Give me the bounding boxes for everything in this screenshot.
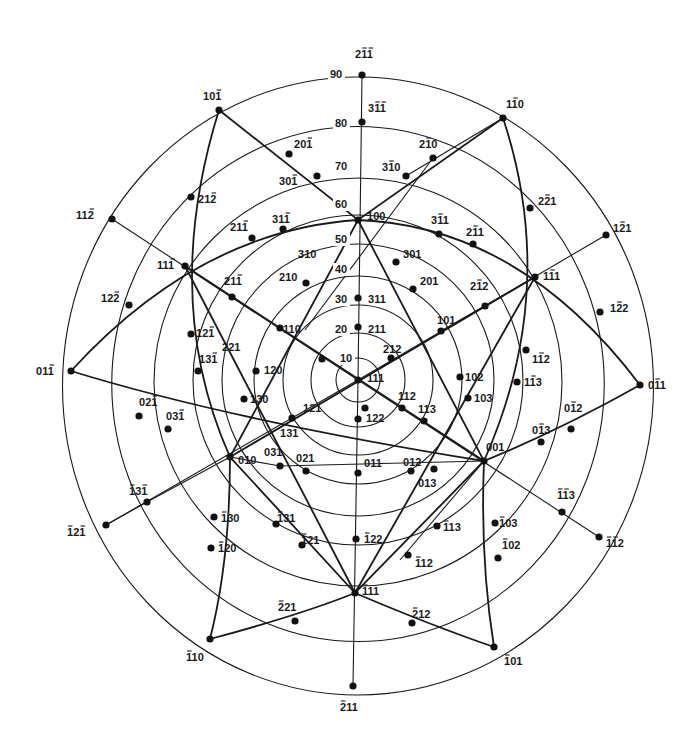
pole-point [349,682,356,689]
pole-label: 010 [238,454,256,466]
pole-point [602,231,609,238]
pole-label: 112 [532,353,550,365]
pole-label: 103 [474,392,492,404]
pole-point [404,551,411,558]
pole-label: 212 [412,608,430,620]
pole-point [318,355,325,362]
pole-label: 221 [222,341,240,353]
pole-point [429,154,436,161]
great-circle-right [483,118,527,647]
pole-point [480,457,487,464]
pole-label: 211 [224,275,242,287]
pole-point [164,425,171,432]
pole-point [252,367,259,374]
pole-point [181,262,188,269]
pole-label: 112 [415,557,433,569]
pole-point [108,215,115,222]
pole-point [531,273,538,280]
pole-point [433,522,440,529]
pole-label: 111 [367,372,384,384]
degree-label: 10 [340,352,352,364]
pole-point [409,285,416,292]
pole-point [358,71,365,78]
pole-label: 210 [419,138,437,150]
pole-point [558,508,565,515]
pole-label: 201 [294,138,312,150]
pole-point [464,394,471,401]
pole-point [490,643,497,650]
pole-label: 301 [403,248,421,260]
pole-label: 012 [564,402,582,414]
degree-label: 40 [335,263,347,275]
pole-label: 211 [230,221,248,233]
pole-point [402,172,409,179]
pole-point [291,617,298,624]
pole-label: 021 [139,396,157,408]
pole-label: 111 [157,259,174,271]
great-circle-bottom [210,593,494,647]
pole-point [285,150,292,157]
pole-point [354,415,361,422]
pole-point [595,533,602,540]
pole-label: 013 [418,477,436,489]
pole-label: 110 [186,651,204,663]
pole-label: 101 [504,655,522,667]
pole-label: 211 [340,701,358,713]
pole-point [240,395,247,402]
pole-label: 011 [648,379,666,391]
pole-label: 310 [298,248,316,260]
pole-label: 113 [524,376,542,388]
pole-label: 121 [613,222,631,234]
pole-point [67,367,74,374]
pole-label: 130 [221,512,239,524]
pole-label: 011 [36,365,54,377]
pole-label: 212 [198,193,216,205]
pole-label: 211 [368,323,386,335]
pole-label: 011 [364,457,382,469]
pole-label: 031 [166,410,184,422]
degree-label: 30 [335,293,347,305]
pole-point [358,118,365,125]
pole-label: 120 [218,542,236,554]
zone-111-111b [185,266,355,593]
pole-point [567,425,574,432]
pole-point [361,404,368,411]
pole-label: 310 [382,161,400,173]
pole-point [430,465,437,472]
pole-point [354,469,361,476]
pole-point [522,346,529,353]
pole-label: 212 [470,280,488,292]
pole-label: 131 [199,353,217,365]
pole-point [437,327,444,334]
pole-point [302,279,309,286]
degree-label: 50 [335,233,347,245]
pole-point [499,114,506,121]
pole-label: 113 [557,489,575,501]
pole-point [354,323,361,330]
pole-point [407,467,414,474]
pole-label: 311 [431,214,449,226]
pole-point [302,467,309,474]
pole-point [187,330,194,337]
zone-113 [400,461,484,560]
pole-point [354,376,361,383]
pole-point [398,404,405,411]
pole-label: 103 [499,517,517,529]
pole-point [206,635,213,642]
pole-label: 111 [543,270,560,282]
pole-label: 131 [280,427,298,439]
pole-point [288,414,295,421]
pole-label: 311 [272,213,290,225]
pole-point [420,417,427,424]
pole-label: 122 [366,412,384,424]
pole-point [226,453,233,460]
pole-point [248,234,255,241]
pole-label: 031 [264,446,282,458]
pole-point [210,513,217,520]
pole-point [526,204,533,211]
pole-point [456,373,463,380]
stereogram-svg: 102030405060708090 211311101201301110210… [0,0,698,746]
pole-point [513,378,520,385]
pole-label: 101 [437,314,455,326]
degree-label: 60 [335,198,347,210]
